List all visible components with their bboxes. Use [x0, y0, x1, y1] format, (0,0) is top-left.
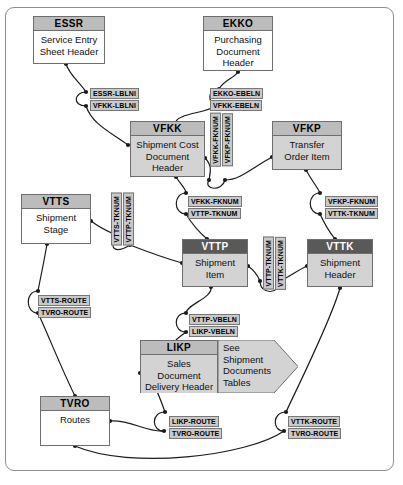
relationship-label: VFKK-FKNUM	[188, 196, 242, 207]
entity-name-vtts: VTTS	[22, 195, 90, 209]
entity-desc-line: Service Entry	[36, 34, 102, 46]
entity-desc-line: Routes	[43, 414, 107, 426]
relationship-label: TVRO-ROUTE	[38, 307, 91, 318]
entity-desc-line: Document	[143, 370, 215, 382]
erd-canvas: ESSRService EntrySheet HeaderEKKOPurchas…	[0, 0, 403, 485]
relationship-label: ESSR-LBLNI	[90, 88, 139, 99]
relationship-label: VTTP-TKNUM	[123, 193, 134, 246]
entity-name-vttk: VTTK	[308, 240, 372, 254]
callout-text-line: Tables	[223, 377, 271, 389]
entity-box-essr[interactable]: ESSRService EntrySheet Header	[33, 16, 105, 64]
entity-desc-ekko: PurchasingDocumentHeader	[204, 31, 272, 69]
entity-desc-vttk: ShipmentHeader	[308, 254, 372, 280]
relationship-label: VTTS-ROUTE	[38, 295, 90, 306]
relationship-label: VTTK-TKNUM	[275, 237, 286, 290]
entity-box-likp[interactable]: LIKPSalesDocumentDelivery Header	[140, 340, 218, 393]
relationship-label: VTTK-ROUTE	[288, 416, 340, 427]
relationship-label: VTTS-TKNUM	[111, 193, 122, 246]
entity-desc-line: Document	[206, 46, 270, 58]
entity-desc-vttp: ShipmentItem	[183, 254, 247, 280]
entity-desc-line: Delivery Header	[143, 381, 215, 393]
entity-box-vttp[interactable]: VTTPShipmentItem	[182, 239, 248, 287]
entity-desc-line: Shipment	[310, 257, 370, 269]
relationship-label: VFKP-FKNUM	[222, 113, 233, 166]
callout-text: SeeShipmentDocumentsTables	[223, 342, 271, 388]
entity-desc-line: Sheet Header	[36, 46, 102, 58]
entity-desc-line: Document	[133, 151, 202, 163]
relationship-label: VFKP-FKNUM	[325, 196, 378, 207]
entity-desc-line: Shipment Cost	[133, 139, 202, 151]
relationship-label: VFKK-EBELN	[210, 100, 262, 111]
entity-name-tvro: TVRO	[41, 397, 109, 411]
entity-desc-tvro: Routes	[41, 411, 109, 426]
entity-desc-line: Sales	[143, 358, 215, 370]
relationship-label: LIKP-ROUTE	[169, 416, 219, 427]
entity-desc-line: Item	[185, 269, 245, 281]
relationship-label: TVRO-ROUTE	[288, 428, 341, 439]
entity-desc-line: Header	[133, 162, 202, 174]
entity-desc-line: Stage	[24, 224, 88, 236]
entity-desc-line: Shipment	[185, 257, 245, 269]
relationship-label: VFKK-FKNUM	[210, 113, 221, 167]
entity-desc-vfkp: TransferOrder Item	[273, 136, 341, 162]
relationship-label: LIKP-VBELN	[189, 326, 238, 337]
entity-desc-likp: SalesDocumentDelivery Header	[141, 355, 217, 393]
entity-desc-line: Purchasing	[206, 34, 270, 46]
entity-box-ekko[interactable]: EKKOPurchasingDocumentHeader	[203, 16, 273, 71]
entity-box-vfkp[interactable]: VFKPTransferOrder Item	[272, 121, 342, 170]
callout-text-line: Documents	[223, 365, 271, 377]
entity-desc-line: Transfer	[275, 139, 339, 151]
entity-desc-vfkk: Shipment CostDocumentHeader	[131, 136, 204, 174]
relationship-label: VTTK-TKNUM	[325, 208, 378, 219]
entity-box-vttk[interactable]: VTTKShipmentHeader	[307, 239, 373, 287]
entity-name-likp: LIKP	[141, 341, 217, 355]
relationship-label: VTTP-TKNUM	[263, 237, 274, 290]
entity-name-essr: ESSR	[34, 17, 104, 31]
relationship-label: TVRO-ROUTE	[169, 428, 222, 439]
relationship-label: VTTP-VBELN	[189, 314, 240, 325]
entity-name-vfkk: VFKK	[131, 122, 204, 136]
entity-name-vfkp: VFKP	[273, 122, 341, 136]
entity-box-vfkk[interactable]: VFKKShipment CostDocumentHeader	[130, 121, 205, 177]
entity-desc-line: Shipment	[24, 212, 88, 224]
entity-desc-vtts: ShipmentStage	[22, 209, 90, 235]
entity-name-vttp: VTTP	[183, 240, 247, 254]
entity-desc-essr: Service EntrySheet Header	[34, 31, 104, 57]
callout-text-line: See	[223, 342, 271, 354]
relationship-label: EKKO-EBELN	[210, 88, 263, 99]
callout-text-line: Shipment	[223, 354, 271, 366]
entity-name-ekko: EKKO	[204, 17, 272, 31]
entity-desc-line: Order Item	[275, 151, 339, 163]
relationship-label: VTTP-TKNUM	[188, 208, 241, 219]
relationship-label: VFKK-LBLNI	[90, 100, 139, 111]
entity-desc-line: Header	[310, 269, 370, 281]
see-shipment-documents-tables[interactable]: SeeShipmentDocumentsTables	[218, 340, 298, 393]
entity-box-vtts[interactable]: VTTSShipmentStage	[21, 194, 91, 244]
entity-box-tvro[interactable]: TVRORoutes	[40, 396, 110, 446]
entity-desc-line: Header	[206, 57, 270, 69]
